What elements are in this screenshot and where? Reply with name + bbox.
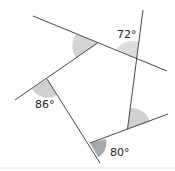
left-line [15, 43, 98, 100]
top-line [33, 16, 167, 71]
angle-label-top-right: 72° [117, 28, 137, 41]
angle-top-right-sector [116, 41, 139, 58]
pentagon-diagram: 72° 86° 80° [0, 0, 175, 171]
angle-label-left: 86° [35, 98, 55, 111]
diagram-canvas: 72° 86° 80° [0, 0, 175, 171]
angle-right-sector [128, 108, 151, 129]
lower-left-line [47, 79, 100, 163]
angle-label-bottom: 80° [110, 146, 130, 159]
